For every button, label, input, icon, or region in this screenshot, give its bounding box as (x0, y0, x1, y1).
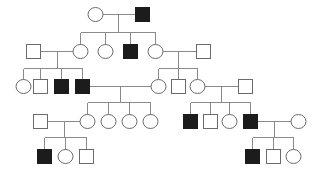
unaffected-female-circle-icon (101, 115, 116, 129)
unaffected-male-square-icon (239, 80, 253, 94)
affected-male-square-icon (124, 45, 138, 59)
unaffected-female-circle-icon (58, 150, 73, 164)
unaffected-male-square-icon (267, 150, 281, 164)
pedigree-canvas (0, 0, 321, 173)
unaffected-female-circle-icon (222, 115, 237, 129)
unaffected-male-square-icon (172, 80, 186, 94)
unaffected-female-circle-icon (98, 45, 113, 59)
unaffected-female-circle-icon (291, 115, 306, 129)
unaffected-female-circle-icon (148, 45, 163, 59)
unaffected-male-square-icon (197, 45, 211, 59)
unaffected-male-square-icon (27, 45, 41, 59)
individuals (16, 8, 306, 164)
unaffected-male-square-icon (204, 115, 218, 129)
affected-male-square-icon (38, 150, 52, 164)
affected-male-square-icon (246, 150, 260, 164)
unaffected-male-square-icon (34, 115, 48, 129)
unaffected-female-circle-icon (122, 115, 137, 129)
unaffected-female-circle-icon (73, 45, 88, 59)
affected-male-square-icon (184, 115, 198, 129)
unaffected-female-circle-icon (143, 115, 158, 129)
unaffected-male-square-icon (34, 80, 48, 94)
unaffected-female-circle-icon (88, 8, 103, 22)
unaffected-female-circle-icon (190, 80, 205, 94)
unaffected-female-circle-icon (151, 80, 166, 94)
unaffected-female-circle-icon (80, 115, 95, 129)
unaffected-male-square-icon (80, 150, 94, 164)
affected-male-square-icon (55, 80, 69, 94)
unaffected-female-circle-icon (286, 150, 301, 164)
affected-male-square-icon (136, 8, 150, 22)
affected-male-square-icon (244, 115, 258, 129)
unaffected-female-circle-icon (16, 80, 31, 94)
affected-male-square-icon (76, 80, 90, 94)
